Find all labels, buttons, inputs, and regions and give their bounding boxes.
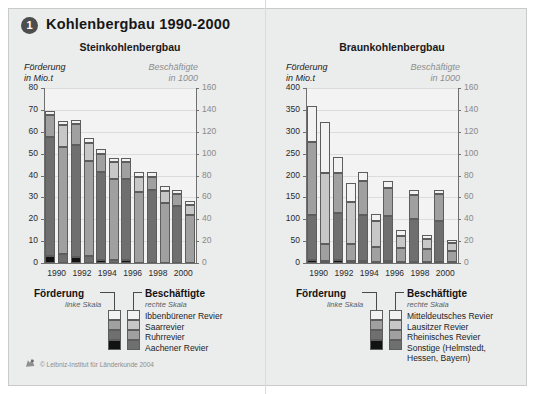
- copyright-text: © Leibniz-Institut für Länderkunde 2004: [40, 361, 154, 368]
- right-axis-tick-label: 120: [464, 127, 494, 136]
- bar-segment: [447, 251, 457, 262]
- legend-connector: [100, 292, 114, 293]
- leibniz-logo-icon: [24, 357, 37, 370]
- right-axis-tick-label: 20: [464, 236, 494, 245]
- bar-left-2000: [434, 190, 444, 264]
- bar-segment: [447, 243, 457, 251]
- bar-segment: [333, 213, 343, 260]
- bar-segment: [409, 219, 419, 262]
- legend-swatch: [389, 340, 402, 350]
- legend-title-beschaeftigte: Beschäftigte: [145, 288, 205, 299]
- bar-segment: [333, 260, 343, 263]
- bar-segment: [307, 260, 317, 264]
- bar-segment: [383, 188, 393, 216]
- left-axis-tick-label: 200: [270, 171, 300, 180]
- x-axis-year-label: 2000: [427, 268, 463, 278]
- legend-swatch: [389, 330, 402, 340]
- right-axis-caption-line2: in 1000: [430, 73, 460, 83]
- x-axis-line: [306, 263, 459, 264]
- bar-left-1998: [409, 190, 419, 263]
- legend-title-foerderung: Förderung: [34, 288, 84, 299]
- legend-swatch: [389, 320, 402, 330]
- legend-swatch: [108, 330, 121, 340]
- left-axis-caption-line1: Förderung: [286, 62, 328, 72]
- bar-right-1994: [371, 214, 381, 263]
- legend-swatch: [127, 320, 140, 330]
- right-axis-tick-label: 40: [464, 214, 494, 223]
- bar-segment: [434, 194, 444, 221]
- left-axis-tick-label: 350: [270, 105, 300, 114]
- bar-segment: [383, 181, 393, 188]
- left-axis-tick-label: 0: [270, 258, 300, 267]
- gridline: [306, 88, 458, 89]
- legend-item-label: Aachener Revier: [145, 343, 208, 354]
- bar-segment: [422, 239, 432, 249]
- legend-item-label: Lausitzer Revier: [407, 322, 468, 333]
- legend-swatch: [127, 330, 140, 340]
- legend-connector: [362, 292, 376, 293]
- right-axis-tick-label: 100: [464, 149, 494, 158]
- bar-right-2000: [447, 240, 457, 263]
- legend-swatch: [370, 310, 383, 320]
- bar-segment: [346, 244, 356, 261]
- legend-title-beschaeftigte: Beschäftigte: [407, 288, 467, 299]
- bar-segment: [358, 172, 368, 181]
- bar-segment: [409, 190, 419, 195]
- bar-segment: [358, 215, 368, 261]
- right-axis-tick-label: 80: [464, 171, 494, 180]
- bar-segment: [371, 247, 381, 262]
- right-axis-tick-label: 60: [464, 192, 494, 201]
- right-axis-line: [458, 88, 459, 263]
- bar-segment: [447, 240, 457, 243]
- bar-segment: [371, 214, 381, 222]
- legend-swatch: [108, 320, 121, 330]
- legend-title-foerderung: Förderung: [296, 288, 346, 299]
- left-axis-tick-label: 50: [270, 236, 300, 245]
- bar-left-1990: [307, 106, 317, 263]
- gridline: [306, 110, 458, 111]
- left-axis-tick-label: 400: [270, 83, 300, 92]
- bar-segment: [333, 173, 343, 213]
- bar-left-1992: [333, 157, 343, 263]
- legend-item-label: Ibbenbürener Revier: [145, 311, 223, 322]
- bar-left-1994: [358, 172, 368, 263]
- bar-segment: [422, 235, 432, 239]
- left-axis-tick-label: 150: [270, 192, 300, 201]
- legend-connector: [133, 292, 134, 310]
- legend-swatch: [108, 310, 121, 320]
- bar-segment: [371, 221, 381, 246]
- legend-connector: [395, 292, 404, 293]
- bar-segment: [434, 221, 444, 262]
- bar-segment: [383, 261, 393, 263]
- legend-connector: [133, 292, 142, 293]
- bar-segment: [396, 248, 406, 262]
- bar-right-1992: [346, 183, 356, 263]
- legend-item-label: Hessen, Bayern): [407, 353, 470, 364]
- legend-swatch-column-foerderung: [108, 310, 121, 350]
- bar-segment: [320, 173, 330, 244]
- bar-segment: [346, 183, 356, 202]
- legend-item-label: Mitteldeutsches Revier: [407, 311, 493, 322]
- legend-item-label: Sonstige (Helmstedt,: [407, 343, 486, 354]
- legend-swatch: [127, 340, 140, 350]
- legend-subtitle-linke-skala: linke Skala: [65, 300, 101, 309]
- bar-right-1996: [396, 230, 406, 263]
- legend-swatch-column-beschaeftigte: [389, 310, 402, 350]
- right-axis-caption-line1: Beschäftigte: [410, 62, 460, 72]
- left-axis-caption: Förderungin Mio.t: [286, 62, 328, 84]
- bar-right-1998: [422, 235, 432, 263]
- bar-segment: [396, 236, 406, 248]
- legend-subtitle-rechte-skala: rechte Skala: [407, 300, 449, 309]
- bar-segment: [320, 244, 330, 260]
- bar-right-1990: [320, 122, 330, 263]
- bar-segment: [358, 261, 368, 263]
- legend-item-label: Ruhrrevier: [145, 332, 185, 343]
- bar-segment: [307, 215, 317, 260]
- left-axis-tick-label: 100: [270, 214, 300, 223]
- bar-segment: [358, 181, 368, 215]
- legend-swatch: [370, 320, 383, 330]
- left-axis-tick-label: 250: [270, 149, 300, 158]
- legend-swatch-column-foerderung: [370, 310, 383, 350]
- bar-left-1996: [383, 181, 393, 263]
- right-axis-tick-label: 160: [464, 83, 494, 92]
